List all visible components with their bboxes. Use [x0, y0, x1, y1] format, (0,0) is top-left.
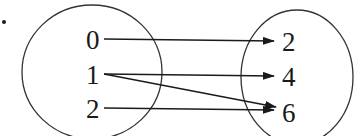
arrow-0-to-2 — [104, 39, 274, 41]
arrow-1-to-6 — [104, 74, 276, 107]
codomain-element-6: 6 — [282, 98, 296, 128]
arrow-1-to-4 — [104, 74, 274, 76]
domain-element-0: 0 — [86, 25, 100, 55]
arrow-2-to-6 — [104, 108, 274, 110]
mapping-diagram: 0 1 2 2 4 6 — [0, 0, 356, 136]
codomain-element-2: 2 — [282, 27, 296, 57]
domain-element-1: 1 — [86, 60, 100, 90]
bullet-dot — [2, 20, 6, 24]
codomain-set-circle — [241, 10, 353, 136]
codomain-element-4: 4 — [282, 62, 296, 92]
domain-element-2: 2 — [86, 94, 100, 124]
